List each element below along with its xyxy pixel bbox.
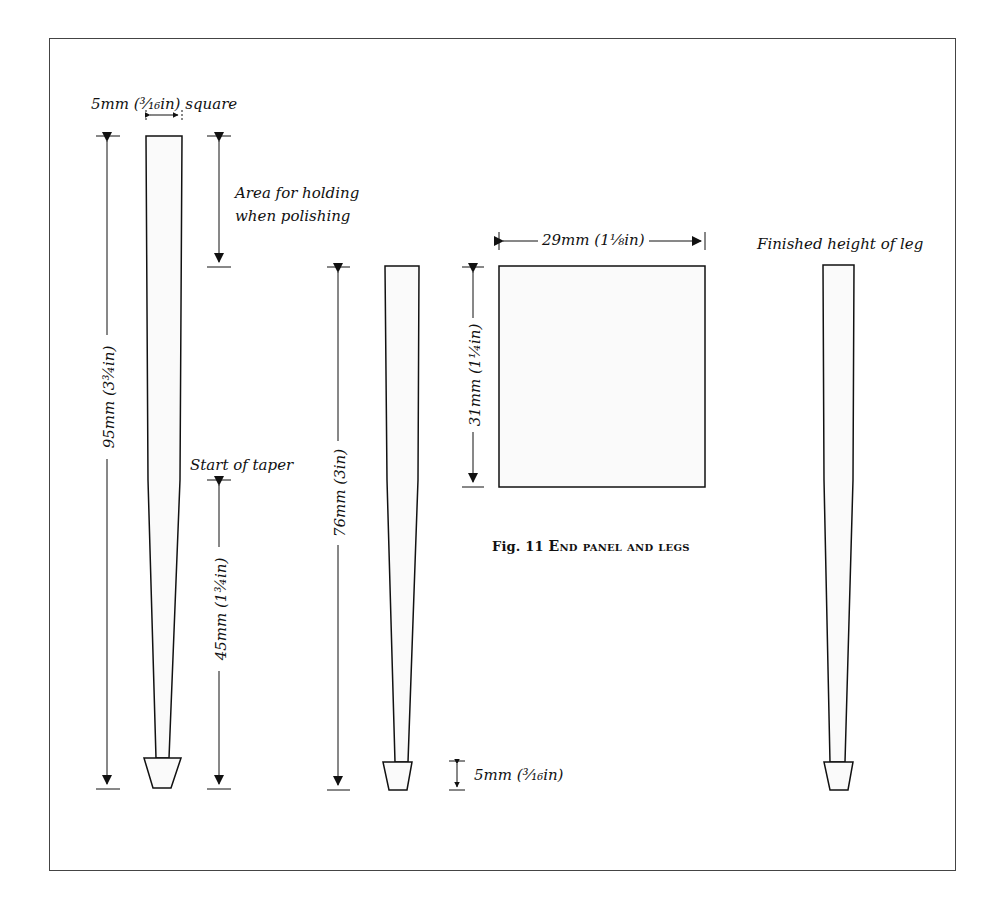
caption-title: End panel and legs [549,538,690,554]
overall-length-label: 95mm (3¾in) [100,335,118,459]
end-panel [499,266,705,487]
taper-length-label: 45mm (1¾in) [212,547,230,671]
holding-area-dimension [207,136,231,267]
foot-height-dimension [449,761,465,790]
holding-area-label-line2: when polishing [235,207,350,226]
holding-area-label-line1: Area for holding [235,184,359,203]
foot-height-label: 5mm (³⁄₁₆in) [474,766,563,785]
finished-height-label: Finished height of leg [757,235,923,254]
finished-length-label: 76mm (3in) [331,441,349,545]
panel-width-label: 29mm (1⅛in) [538,231,649,250]
overall-length-dimension [96,136,120,789]
top-width-label: 5mm (³⁄₁₆in) square [91,95,237,114]
figure-caption: Fig. 11 End panel and legs [492,538,690,554]
rough-leg [144,136,182,788]
finished-leg [823,265,854,790]
turned-leg [383,266,419,790]
caption-number: Fig. 11 [492,539,544,554]
panel-height-label: 31mm (1¼in) [466,318,484,432]
start-of-taper-label: Start of taper [190,456,293,475]
